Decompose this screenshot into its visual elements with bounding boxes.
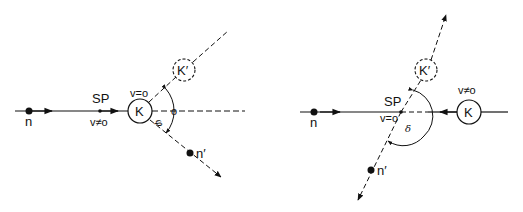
scattering-diagrams: n SP v≠o K v=o K′ n′ o φ n [0, 0, 523, 212]
recoil-nucleus-label: K′ [419, 63, 431, 78]
scattered-neutron-path [150, 120, 221, 177]
angle-label-phi: φ [153, 117, 166, 127]
scatter-point-dot [98, 109, 102, 113]
scattered-neutron-label: n′ [377, 163, 387, 178]
left-diagram: n SP v≠o K v=o K′ n′ o φ [15, 31, 245, 177]
angle-label-delta: δ [405, 123, 411, 134]
nucleus-label: K [464, 105, 473, 120]
scatter-point-velocity-label: v=o [380, 112, 398, 124]
origin-marker: o [171, 105, 177, 117]
scattered-neutron-label: n′ [196, 146, 206, 161]
right-diagram: n K v≠o SP v=o K′ n′ δ [300, 15, 508, 200]
neutron-label: n [310, 115, 317, 130]
scatter-point-label: SP [384, 94, 401, 109]
scatter-point-label: SP [92, 91, 109, 106]
scattered-neutron-dot [187, 150, 194, 157]
recoil-path-extension [193, 31, 228, 62]
nucleus-velocity-label: v=o [130, 87, 148, 99]
scattered-neutron-dot [368, 167, 375, 174]
nucleus-label: K [135, 104, 144, 119]
recoil-path [401, 80, 421, 112]
incoming-velocity-label: v≠o [90, 116, 108, 128]
nucleus-velocity-label: v≠o [458, 84, 476, 96]
recoil-path-extension [431, 15, 446, 60]
neutron-label: n [25, 114, 32, 129]
scattered-neutron-path [358, 112, 401, 200]
recoil-nucleus-label: K′ [177, 63, 189, 78]
